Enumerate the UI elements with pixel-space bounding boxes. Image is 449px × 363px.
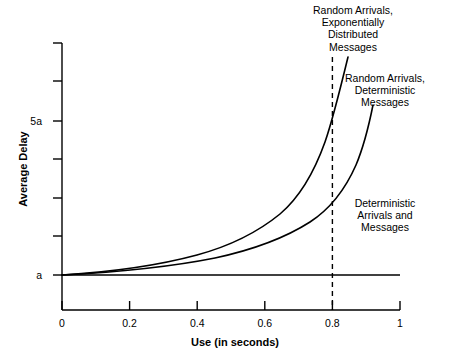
chart-figure: 5a a 0 0.2 0.4 0.6 0.8 1 Use (in seconds… [0, 0, 449, 363]
x-axis-ticks [62, 301, 400, 310]
x-axis-title: Use (in seconds) [130, 336, 340, 348]
annotation-deterministic-arrivals-and-messages: Deterministic Arrivals and Messages [330, 197, 440, 234]
x-tick-label-0-4: 0.4 [177, 317, 217, 329]
series-random-arrivals-deterministic-messages [62, 105, 373, 275]
x-tick-label-0: 0 [42, 317, 82, 329]
x-tick-label-0-2: 0.2 [110, 317, 150, 329]
x-tick-label-0-6: 0.6 [245, 317, 285, 329]
annotation-random-arrivals-deterministic: Random Arrivals, Deterministic Messages [322, 72, 448, 109]
annotation-random-arrivals-exponential: Random Arrivals, Exponentially Distribut… [278, 4, 428, 53]
y-axis-title: Average Delay [17, 114, 29, 224]
x-tick-label-0-8: 0.8 [312, 317, 352, 329]
y-tick-label-a: a [12, 269, 42, 281]
x-tick-label-1: 1 [380, 317, 420, 329]
chart-plot-area [0, 0, 449, 363]
y-axis-ticks [53, 43, 62, 275]
series-random-arrivals-exponential-messages [62, 57, 348, 275]
